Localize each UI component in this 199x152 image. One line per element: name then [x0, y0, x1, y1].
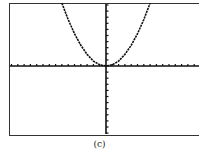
axis-ticks: [12, 5, 195, 133]
figure-caption: (c): [0, 139, 199, 149]
frame: [9, 3, 199, 136]
axes: [10, 4, 199, 134]
chart-plot: [0, 0, 199, 152]
